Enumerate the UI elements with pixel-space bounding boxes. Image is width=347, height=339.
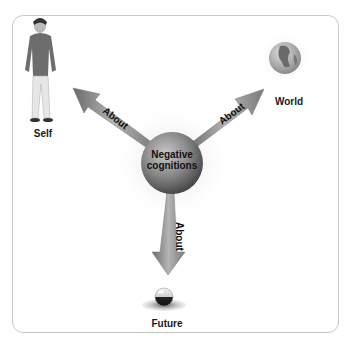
- node-label-self: Self: [34, 128, 52, 139]
- edge-label-world: About: [217, 100, 247, 127]
- globe-icon: [259, 32, 311, 84]
- center-label-line1: Negative: [147, 149, 198, 160]
- node-label-future: Future: [151, 318, 182, 329]
- edge-label-future: About: [174, 222, 185, 252]
- center-label-line2: cognitions: [147, 160, 198, 171]
- node-label-world: World: [275, 96, 303, 107]
- person-icon: [25, 18, 56, 122]
- center-node-label: Negative cognitions: [147, 149, 198, 171]
- crystal-ball-icon: [142, 288, 186, 311]
